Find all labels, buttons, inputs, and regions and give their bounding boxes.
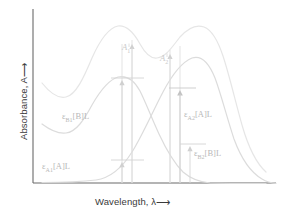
annotation-a2-label: A2	[160, 53, 168, 65]
x-axis-label-text: Wavelength, λ	[95, 196, 156, 207]
annotation-eps-a2-label: εA2[A]L	[184, 109, 212, 121]
absorbance-spectra-figure: Absorbance, A⟶ Wavelength, λ⟶ A1 A2 εB1[…	[0, 0, 293, 215]
x-axis-label: Wavelength, λ⟶	[95, 196, 169, 208]
total-absorbance-arrows	[129, 44, 172, 183]
species-b-curve	[42, 77, 266, 184]
wavelength-guide-lines	[122, 40, 180, 183]
y-axis-label-text: Absorbance, A	[18, 77, 29, 140]
total-absorbance-curve	[42, 26, 266, 172]
annotation-a1-label: A1	[122, 42, 130, 54]
eps-a2-arrow-group	[169, 88, 196, 183]
annotation-eps-b2-label: εB2[B]L	[194, 148, 221, 160]
annotation-eps-a1-label: εA1[A]L	[42, 161, 70, 173]
annotation-eps-b1-label: εB1[B]L	[62, 111, 89, 123]
plot-canvas	[0, 0, 293, 215]
y-axis-arrow-icon: ⟶	[19, 64, 30, 77]
x-axis-arrow-icon: ⟶	[156, 197, 169, 208]
y-axis-label: Absorbance, A⟶	[18, 42, 30, 162]
